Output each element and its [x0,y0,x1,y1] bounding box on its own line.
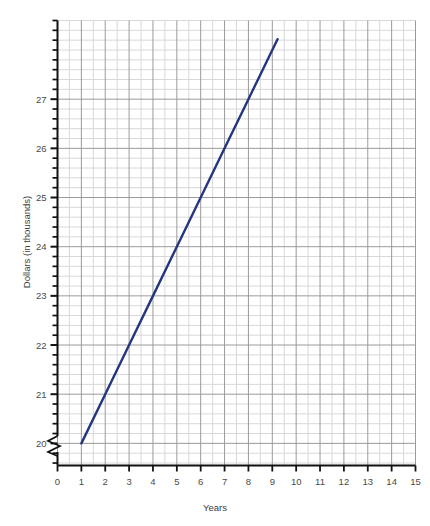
chart-canvas: 2021222324252627 0123456789101112131415 … [0,0,430,526]
y-tick-label: 23 [36,290,47,301]
x-tick-label: 12 [339,476,350,487]
x-tick-label: 10 [291,476,302,487]
line-chart: 2021222324252627 0123456789101112131415 … [0,0,430,526]
y-tick-label: 20 [36,438,47,449]
x-tick-label: 7 [222,476,227,487]
x-tick-label: 15 [410,476,421,487]
x-tick-label: 14 [386,476,397,487]
y-tick-label: 25 [36,192,47,203]
x-tick-label: 2 [103,476,108,487]
x-tick-label: 3 [126,476,131,487]
x-tick-label: 9 [270,476,275,487]
x-tick-label: 1 [79,476,84,487]
x-tick-label: 5 [174,476,179,487]
y-tick-label: 27 [36,94,47,105]
x-tick-label: 0 [55,476,60,487]
y-tick-label: 26 [36,143,47,154]
y-tick-label: 21 [36,389,47,400]
x-tick-label: 8 [246,476,251,487]
y-tick-label: 24 [36,241,47,252]
y-axis-title: Dollars (in thousands) [21,196,32,288]
x-tick-label: 13 [362,476,373,487]
y-axis-tick-labels: 2021222324252627 [36,94,47,449]
x-tick-label: 4 [150,476,155,487]
x-axis-tick-labels: 0123456789101112131415 [55,476,421,487]
x-tick-label: 11 [315,476,325,487]
y-axis-ticks [51,21,58,464]
x-axis-title: Years [203,502,227,513]
minor-gridlines [58,21,416,466]
x-tick-label: 6 [198,476,203,487]
y-tick-label: 22 [36,340,47,351]
